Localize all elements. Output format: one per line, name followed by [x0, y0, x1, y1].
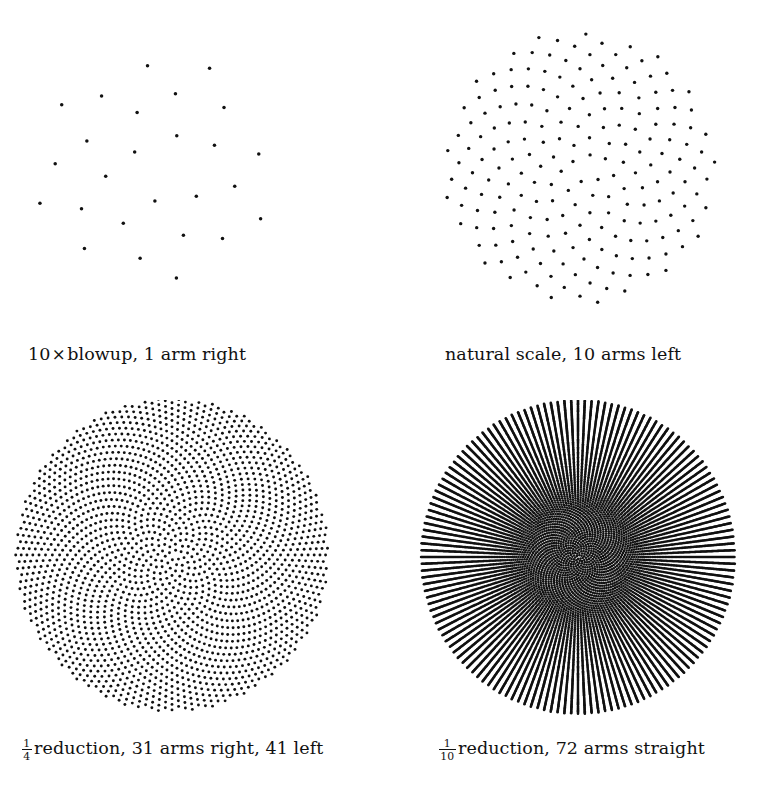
spiral-plot-natural [383, 0, 766, 340]
caption-text: natural scale, 10 arms left [445, 344, 681, 364]
spiral-point-group [420, 400, 736, 715]
caption-text: reduction, 31 arms right, 41 left [34, 738, 324, 758]
phyllotaxis-figure: 10×blowup, 1 arm right natural scale, 10… [0, 0, 766, 800]
spiral-plot-blowup [0, 0, 383, 340]
fraction-one-tenth: 110 [439, 738, 456, 762]
fraction-one-quarter: 14 [22, 738, 32, 762]
panel-blowup: 10×blowup, 1 arm right [0, 0, 383, 400]
caption-scale-number: 10 [28, 344, 50, 364]
caption-natural: natural scale, 10 arms left [383, 345, 766, 364]
panel-natural: natural scale, 10 arms left [383, 0, 766, 400]
fraction-numerator: 1 [439, 738, 456, 749]
spiral-point-group [445, 32, 716, 304]
panel-quarter: 14reduction, 31 arms right, 41 left [0, 400, 383, 800]
spiral-point-group [14, 400, 329, 712]
fraction-denominator: 4 [22, 749, 32, 761]
multiplication-sign-icon: × [50, 345, 67, 364]
caption-tenth: 110reduction, 72 arms straight [383, 737, 766, 761]
fraction-numerator: 1 [22, 738, 32, 749]
fraction-denominator: 10 [439, 749, 456, 761]
panel-tenth: 110reduction, 72 arms straight [383, 400, 766, 800]
spiral-point-group [38, 64, 262, 280]
spiral-plot-quarter [0, 400, 383, 730]
spiral-plot-tenth [383, 400, 766, 730]
caption-text: blowup, 1 arm right [67, 344, 246, 364]
caption-text: reduction, 72 arms straight [458, 738, 705, 758]
caption-blowup: 10×blowup, 1 arm right [0, 345, 411, 364]
caption-quarter: 14reduction, 31 arms right, 41 left [0, 737, 405, 761]
